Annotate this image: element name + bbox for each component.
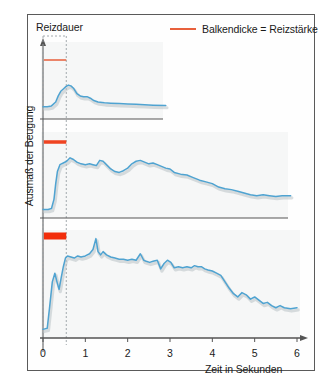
x-tick-label-6: 6: [294, 347, 300, 359]
x-tick-label-3: 3: [167, 347, 173, 359]
stimulus-bar-strong: [44, 233, 66, 240]
stimulus-bar-medium: [44, 140, 66, 144]
x-tick-label-2: 2: [125, 347, 131, 359]
figure-root: Balkendicke = Reizstärke Reizdauer Ausma…: [0, 0, 326, 385]
plot-canvas: [0, 0, 326, 385]
x-tick-label-4: 4: [209, 347, 215, 359]
x-tick-label-0: 0: [40, 347, 46, 359]
x-tick-label-1: 1: [82, 347, 88, 359]
stimulus-bar-weak: [44, 59, 66, 61]
panel-background-1: [41, 132, 288, 218]
panel-background-2: [41, 230, 300, 338]
x-tick-label-5: 5: [252, 347, 258, 359]
x-axis-arrow-icon: [300, 335, 308, 341]
